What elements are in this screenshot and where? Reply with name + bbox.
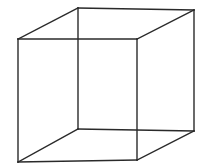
cube-edge-front-bottom-left-to-back-bottom-left [18,129,78,162]
cube-edge-back-bottom-right-to-back-bottom-left [78,129,194,131]
cube-edge-front-bottom-right-to-front-bottom-left [18,160,137,162]
cube-edge-back-top-left-to-back-top-right [78,8,194,10]
cube-edges [18,8,194,162]
cube-edge-front-top-left-to-back-top-left [18,8,78,39]
cube-edge-front-bottom-right-to-back-bottom-right [137,131,194,160]
cube-edge-front-top-right-to-back-top-right [137,10,194,39]
necker-cube-diagram [0,0,209,167]
